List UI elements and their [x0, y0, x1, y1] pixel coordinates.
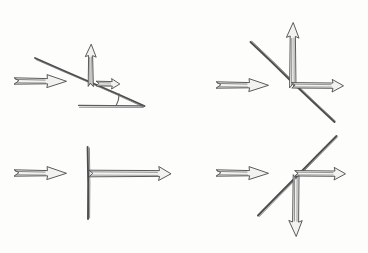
panel-bottom-right: [216, 136, 346, 237]
sketch-figure: [0, 0, 368, 253]
panel-bottom-left: [14, 147, 171, 219]
incoming-arrow: [216, 79, 269, 92]
incoming-arrow: [14, 75, 67, 88]
vertical-surface-line: [88, 147, 89, 219]
horizontal-component-arrow: [89, 167, 171, 181]
panel-top-right: [216, 23, 344, 123]
panel-top-left: [14, 44, 145, 107]
sketch-canvas: [0, 0, 368, 253]
incoming-arrow: [14, 167, 67, 180]
incoming-arrow: [216, 167, 269, 180]
